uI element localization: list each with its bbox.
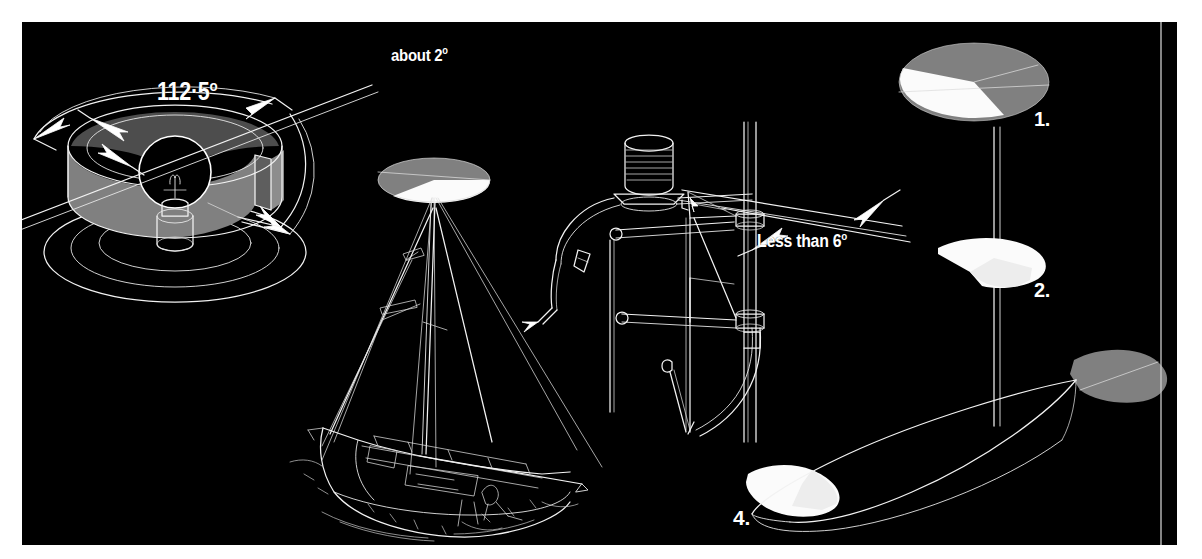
water-wake [290, 460, 578, 541]
label-about-angle: about 2o [391, 47, 448, 64]
sailboat-hull [308, 428, 588, 537]
figure-root: .ln { fill:none; stroke:#f2f2f2; stroke-… [0, 0, 1202, 559]
masthead-beam-disc [378, 158, 490, 203]
drawing-hull-plan-sectors [746, 43, 1167, 531]
sector-disc-1 [899, 43, 1049, 121]
callout-label-1: 1. [1034, 109, 1050, 129]
illustration-plate: .ln { fill:none; stroke:#f2f2f2; stroke-… [22, 22, 1177, 545]
bow-lamp [614, 135, 684, 211]
label-cone-angle: 112·5o [157, 79, 217, 104]
label-less-than-angle: Less than 6o [757, 232, 847, 250]
sector-shape-4 [746, 465, 840, 517]
drawing-sailboat-masthead-beam [290, 158, 602, 541]
drawing-bow-fitting-detail [522, 122, 910, 442]
callout-label-2: 2. [1034, 280, 1050, 300]
sector-lobe-2 [938, 238, 1046, 288]
drawing-lamp-housing-cutaway [22, 85, 378, 302]
sector-shape-3 [1070, 350, 1167, 403]
callout-label-4: 4. [733, 507, 750, 528]
